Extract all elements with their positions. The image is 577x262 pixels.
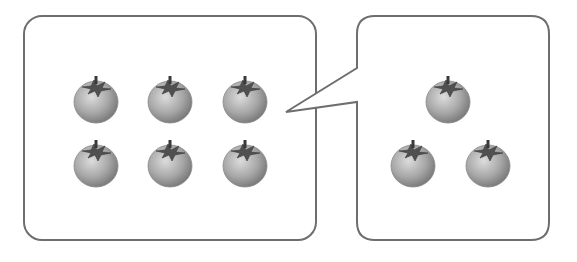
tomato-diagram: [0, 0, 577, 262]
left-panel: [24, 16, 316, 240]
right-panel-callout: [286, 16, 549, 240]
